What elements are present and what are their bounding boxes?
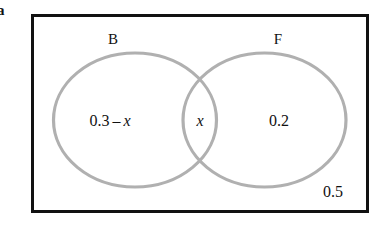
- variable-x-b-only: x: [123, 112, 130, 129]
- venn-diagram-figure: a B F 0.3–x x 0.2 0.5: [0, 0, 381, 228]
- region-label-f-only: 0.2: [243, 111, 315, 131]
- set-label-b: B: [95, 30, 131, 48]
- region-label-outside: 0.5: [305, 182, 361, 202]
- part-label: a: [0, 0, 19, 22]
- region-label-b-only: 0.3–x: [60, 111, 160, 131]
- minus-operator: –: [112, 112, 120, 129]
- region-text-b-only: 0.3: [89, 112, 109, 129]
- set-label-f: F: [260, 30, 296, 48]
- region-label-intersection: x: [185, 111, 215, 131]
